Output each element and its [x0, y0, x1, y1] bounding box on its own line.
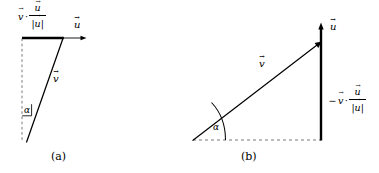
panel-a-proj-vec-v: v: [18, 10, 23, 22]
panel-a-alpha-label: α: [24, 105, 30, 115]
panel-a-v-label: v: [53, 72, 59, 84]
panel-b-proj-denominator-vec: u: [355, 101, 361, 114]
panel-b-proj-fraction: u |u|: [349, 87, 366, 114]
panel-a-u-label-wrap: u: [74, 18, 80, 30]
panel-b-proj-vec-v: v: [338, 94, 343, 106]
panel-b-proj-minus: −: [327, 95, 338, 106]
panel-b-v-label-wrap: v: [259, 57, 265, 69]
panel-a-v-label-wrap: v: [53, 72, 59, 84]
panel-b-u-arrowhead: [318, 23, 323, 30]
panel-b-alpha-label: α: [213, 122, 219, 132]
panel-b-u-label: u: [330, 20, 336, 32]
panel-a-proj-denominator-vec: u: [35, 17, 41, 30]
panel-b-proj-denominator: |u|: [349, 100, 366, 114]
panel-a-graphics: [22, 36, 87, 142]
panel-b-v-vector-line: [193, 44, 318, 140]
panel-b-u-label-wrap: u: [330, 20, 336, 32]
panel-a-projection-label: v· u |u|: [18, 4, 46, 31]
panel-a-v-vector-line: [27, 38, 64, 143]
panel-b-v-label: v: [259, 57, 265, 69]
panel-a-caption: (a): [51, 150, 66, 163]
panel-a-u-arrowhead: [81, 36, 87, 41]
panel-a-proj-fraction: u |u|: [29, 3, 46, 30]
panel-b-caption: (b): [241, 150, 257, 163]
vector-projection-figure: v· u |u| u v α (a) u v −v· u |u| α (b): [0, 0, 379, 173]
panel-b-projection-label: −v· u |u|: [327, 88, 366, 115]
panel-a-proj-denominator: |u|: [29, 16, 46, 30]
figure-canvas: [0, 0, 379, 173]
panel-a-u-label: u: [74, 18, 80, 30]
